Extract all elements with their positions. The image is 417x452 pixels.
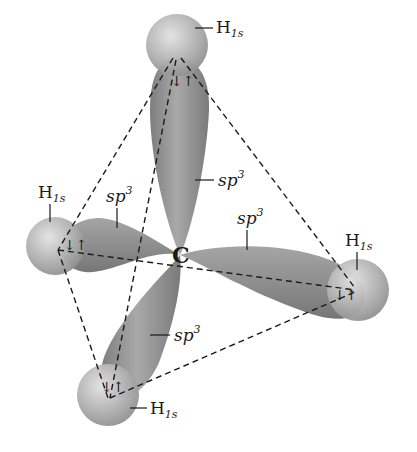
carbon-label: C — [172, 242, 190, 268]
edge-left-bottom — [58, 250, 108, 398]
sp3-label-bottom: sp3 — [174, 323, 201, 345]
h1s-label-bottom: H1s — [150, 398, 178, 421]
electron-pair-right: ↓↑ — [334, 287, 357, 303]
h1s-sphere-bottom — [77, 364, 139, 426]
hydrogen-spheres — [26, 14, 389, 426]
hydrogen-labels: H1s H1s H1s H1s — [38, 17, 373, 421]
orbital-lobes — [62, 58, 365, 398]
electron-pair-top: ↓↑ — [171, 73, 194, 89]
sp3-label-top: sp3 — [218, 168, 245, 190]
h1s-sphere-top — [146, 14, 208, 76]
h1s-label-left: H1s — [38, 182, 66, 205]
sp3-label-right: sp3 — [237, 206, 264, 228]
electron-pair-bottom: ↓↑ — [101, 379, 124, 395]
h1s-label-right: H1s — [345, 230, 373, 253]
electron-pair-left: ↓↑ — [64, 237, 87, 253]
methane-sp3-diagram: ↓↑ ↓↑ ↓↑ ↓↑ C H1s H1s H1s H1s sp3 — [0, 0, 417, 452]
sp3-label-left: sp3 — [106, 184, 133, 206]
h1s-label-top: H1s — [216, 17, 244, 40]
